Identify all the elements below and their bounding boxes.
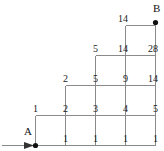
path-count: 14 bbox=[118, 14, 128, 24]
entry-arrow-head bbox=[24, 142, 34, 149]
path-count: 3 bbox=[93, 104, 98, 114]
point-b-dot bbox=[153, 20, 158, 25]
lattice-path-diagram: A B 14 5 14 28 2 5 9 14 1 2 3 4 5 1 1 1 … bbox=[0, 0, 164, 151]
path-count: 28 bbox=[148, 44, 158, 54]
path-count: 2 bbox=[63, 104, 68, 114]
path-count: 1 bbox=[123, 134, 128, 144]
point-label-a: A bbox=[24, 126, 32, 136]
point-label-b: B bbox=[153, 3, 160, 13]
path-count: 1 bbox=[153, 134, 158, 144]
path-count: 5 bbox=[93, 44, 98, 54]
path-count: 2 bbox=[63, 74, 68, 84]
path-count: 1 bbox=[33, 104, 38, 114]
path-count: 14 bbox=[118, 44, 128, 54]
point-a-dot bbox=[33, 143, 38, 148]
path-count: 4 bbox=[123, 104, 128, 114]
path-count: 1 bbox=[93, 134, 98, 144]
path-count: 1 bbox=[63, 134, 68, 144]
path-count: 5 bbox=[93, 74, 98, 84]
path-count: 14 bbox=[148, 74, 158, 84]
path-count: 5 bbox=[153, 104, 158, 114]
path-count: 9 bbox=[123, 74, 128, 84]
